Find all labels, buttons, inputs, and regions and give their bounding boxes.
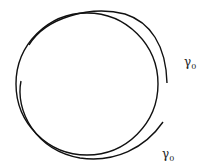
label-gamma0-upper: γ0 xyxy=(184,56,196,71)
label-gamma0-lower: γ0 xyxy=(162,148,174,163)
curve-gamma0-upper xyxy=(29,11,167,83)
curve-gamma0-lower xyxy=(20,81,163,159)
diagram-canvas xyxy=(0,0,206,168)
